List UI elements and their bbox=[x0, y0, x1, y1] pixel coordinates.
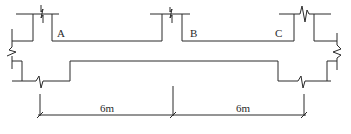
dimension-line bbox=[37, 86, 307, 118]
dimension-label-bc: 6m bbox=[236, 102, 251, 114]
frame-diagram: A B C 6m 6m bbox=[0, 0, 351, 134]
column-b-top bbox=[150, 7, 190, 41]
dimension-label-ab: 6m bbox=[100, 102, 115, 114]
joint-label-c: C bbox=[275, 27, 282, 39]
right-break bbox=[327, 33, 341, 81]
left-break bbox=[7, 29, 22, 81]
column-a-top bbox=[16, 5, 59, 41]
joint-label-b: B bbox=[190, 27, 197, 39]
lower-beam bbox=[12, 61, 331, 88]
column-c-top bbox=[279, 6, 331, 41]
joint-label-a: A bbox=[57, 27, 65, 39]
